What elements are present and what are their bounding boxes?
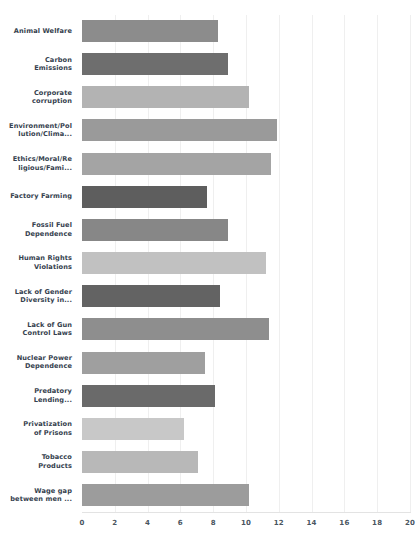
category-label-line: Control Laws (0, 329, 72, 338)
bar-fill (82, 53, 228, 75)
category-label: Fossil FuelDependence (0, 221, 72, 238)
category-label: Environment/Pollution/Clima... (0, 122, 72, 139)
x-tick-label-12: 12 (274, 519, 284, 527)
bar[interactable] (82, 53, 228, 75)
bar[interactable] (82, 186, 207, 208)
category-label-line: Privatization (0, 420, 72, 429)
bar-fill (82, 451, 198, 473)
x-tick-label-20: 20 (405, 519, 415, 527)
category-label-line: Animal Welfare (0, 27, 72, 36)
category-label-line: Diversity in... (0, 296, 72, 305)
category-label-line: Products (0, 462, 72, 471)
category-label-line: Dependence (0, 362, 72, 371)
category-label: Corporatecorruption (0, 89, 72, 106)
bar[interactable] (82, 219, 228, 241)
category-label: Privatizationof Prisons (0, 420, 72, 437)
bar-fill (82, 285, 220, 307)
x-tick-label-4: 4 (145, 519, 150, 527)
category-label-line: Environment/Pol (0, 122, 72, 131)
category-label-line: Lack of Gun (0, 321, 72, 330)
bar-fill (82, 484, 249, 506)
category-label: CarbonEmissions (0, 56, 72, 73)
bar-fill (82, 186, 207, 208)
bar-fill (82, 86, 249, 108)
x-tick-label-10: 10 (241, 519, 251, 527)
category-label-line: Human Rights (0, 254, 72, 263)
x-tick-label-16: 16 (339, 519, 349, 527)
bar-fill (82, 20, 218, 42)
x-tick-label-6: 6 (178, 519, 183, 527)
category-label-line: of Prisons (0, 429, 72, 438)
bar-fill (82, 119, 277, 141)
x-tick-label-18: 18 (372, 519, 382, 527)
category-label: Lack of GunControl Laws (0, 321, 72, 338)
bar[interactable] (82, 451, 198, 473)
x-tick-label-2: 2 (112, 519, 117, 527)
bar[interactable] (82, 20, 218, 42)
category-label-line: Emissions (0, 64, 72, 73)
category-label-line: Predatory (0, 387, 72, 396)
bar[interactable] (82, 352, 205, 374)
category-label-line: Tobacco (0, 453, 72, 462)
category-label: Animal Welfare (0, 27, 72, 36)
category-label-line: ligious/Fami... (0, 164, 72, 173)
category-label: PredatoryLending... (0, 387, 72, 404)
bar-fill (82, 252, 266, 274)
category-label: Nuclear PowerDependence (0, 354, 72, 371)
bar[interactable] (82, 153, 271, 175)
bar[interactable] (82, 119, 277, 141)
bar[interactable] (82, 484, 249, 506)
gridline-20 (410, 15, 411, 512)
bar[interactable] (82, 86, 249, 108)
x-tick-label-8: 8 (211, 519, 216, 527)
bar-fill (82, 385, 215, 407)
category-label-line: Wage gap (0, 487, 72, 496)
category-label-line: Lack of Gender (0, 288, 72, 297)
category-label: Wage gapbetween men ... (0, 487, 72, 504)
category-label: Human RightsViolations (0, 254, 72, 271)
clipped-title-remnant: ... (205, 0, 265, 5)
bar[interactable] (82, 418, 184, 440)
category-label-line: Nuclear Power (0, 354, 72, 363)
x-axis-baseline (82, 512, 411, 513)
bar-fill (82, 153, 271, 175)
x-tick-label-0: 0 (79, 519, 84, 527)
category-label-line: Dependence (0, 230, 72, 239)
bar[interactable] (82, 285, 220, 307)
plot-area (82, 15, 410, 512)
category-label-line: corruption (0, 97, 72, 106)
bar-fill (82, 318, 269, 340)
bar[interactable] (82, 385, 215, 407)
bar-fill (82, 418, 184, 440)
category-label-line: Ethics/Moral/Re (0, 155, 72, 164)
category-label-line: lution/Clima... (0, 130, 72, 139)
bar[interactable] (82, 252, 266, 274)
x-tick-label-14: 14 (307, 519, 317, 527)
category-label-line: Corporate (0, 89, 72, 98)
bar-chart: ... Animal WelfareCarbonEmissionsCorpora… (0, 0, 420, 543)
category-label-line: Fossil Fuel (0, 221, 72, 230)
category-label-line: Lending... (0, 396, 72, 405)
category-label: Ethics/Moral/Religious/Fami... (0, 155, 72, 172)
category-label: Factory Farming (0, 192, 72, 201)
category-label-line: Factory Farming (0, 192, 72, 201)
category-label-line: Carbon (0, 56, 72, 65)
category-label-line: Violations (0, 263, 72, 272)
bar-fill (82, 219, 228, 241)
bar-fill (82, 352, 205, 374)
category-label-line: between men ... (0, 495, 72, 504)
category-label: Lack of GenderDiversity in... (0, 288, 72, 305)
bar[interactable] (82, 318, 269, 340)
category-label: TobaccoProducts (0, 453, 72, 470)
